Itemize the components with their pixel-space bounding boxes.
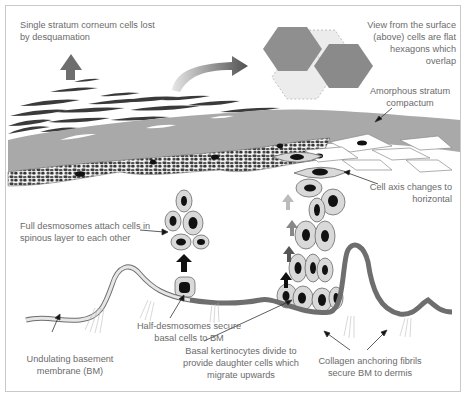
surface-view-arrow-icon xyxy=(172,56,248,92)
basement-membrane xyxy=(26,245,452,320)
label-surface-view: View from the surface (above) cells are … xyxy=(340,19,456,67)
up-arrow-icon xyxy=(282,194,294,210)
label-stratum-compactum: Amorphous stratum compactum xyxy=(362,85,458,109)
label-full-desmosomes: Full desmosomes attach cells in spinous … xyxy=(20,220,150,244)
label-collagen-fibrils: Collagen anchoring fibrils secure BM to … xyxy=(310,355,430,379)
label-desquamation: Single stratum corneum cells lost by des… xyxy=(20,19,155,43)
epidermis-diagram: Single stratum corneum cells lost by des… xyxy=(0,0,466,397)
basal-cell xyxy=(175,277,195,297)
label-basal-keratinocytes: Basal kertinocytes divide to provide dau… xyxy=(173,345,309,381)
desquamation-arrow-icon xyxy=(60,54,82,80)
label-cell-axis: Cell axis changes to horizontal xyxy=(352,181,452,205)
label-basement-membrane: Undulating basement membrane (BM) xyxy=(22,353,118,377)
up-arrow-icon xyxy=(176,254,192,272)
migrating-keratinocyte-column xyxy=(272,152,347,312)
spinous-cell-cluster xyxy=(165,190,209,250)
label-half-desmosomes: Half-desmosomes secure basal cells to BM xyxy=(130,320,248,344)
